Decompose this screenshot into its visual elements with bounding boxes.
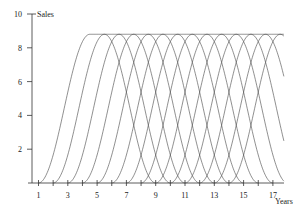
x-axis-title: Years (275, 197, 293, 206)
x-tick-label: 3 (66, 191, 70, 200)
y-axis-title: Sales (37, 10, 54, 19)
lifecycle-curve (126, 34, 243, 183)
axis-labels: 1357911131517246810SalesYears (14, 10, 293, 206)
lifecycle-curves (39, 34, 284, 183)
lifecycle-curve (39, 34, 156, 183)
lifecycle-curve (112, 34, 229, 183)
lifecycle-curve (97, 34, 214, 183)
lifecycle-curve (53, 34, 170, 183)
y-tick-label: 6 (18, 78, 22, 87)
lifecycle-curve (141, 34, 258, 183)
sales-lifecycle-chart: 1357911131517246810SalesYears (0, 0, 304, 213)
x-tick-label: 5 (95, 191, 99, 200)
x-tick-label: 13 (210, 191, 218, 200)
lifecycle-curve (68, 34, 185, 183)
x-tick-label: 7 (124, 191, 128, 200)
y-tick-label: 8 (18, 44, 22, 53)
y-tick-label: 2 (18, 145, 22, 154)
x-tick-label: 9 (154, 191, 158, 200)
y-tick-label: 10 (14, 10, 22, 19)
x-tick-label: 1 (37, 191, 41, 200)
lifecycle-curve (156, 34, 273, 183)
y-tick-label: 4 (18, 111, 22, 120)
lifecycle-curve (82, 34, 199, 183)
lifecycle-curve (229, 34, 284, 183)
x-tick-label: 11 (181, 191, 189, 200)
x-tick-label: 15 (240, 191, 248, 200)
